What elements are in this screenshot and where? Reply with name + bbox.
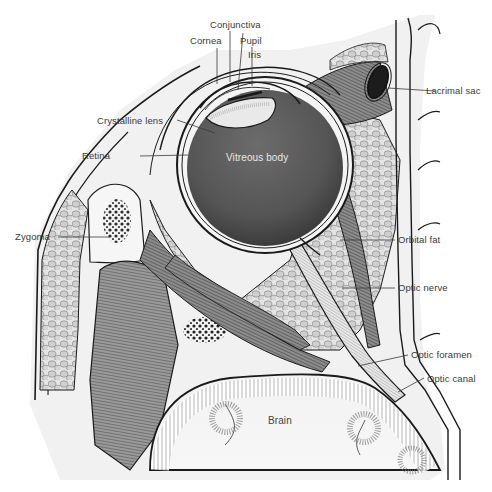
orbit-anatomy-diagram: Conjunctiva Cornea Pupil Iris Crystallin…	[0, 0, 492, 492]
label-optic-nerve: Optic nerve	[398, 282, 448, 293]
label-cornea: Cornea	[190, 35, 222, 46]
label-retina: Retina	[82, 150, 110, 161]
label-conjunctiva: Conjunctiva	[210, 19, 261, 30]
label-optic-foramen: Optic foramen	[411, 349, 472, 360]
label-optic-canal: Optic canal	[427, 373, 476, 384]
label-iris: Iris	[248, 49, 261, 60]
label-pupil: Pupil	[240, 35, 262, 46]
label-zygoma: Zygoma	[15, 231, 50, 242]
label-brain: Brain	[268, 415, 292, 426]
label-crystalline-lens: Crystalline lens	[97, 115, 163, 126]
label-lacrimal-sac: Lacrimal sac	[426, 85, 481, 96]
label-vitreous-body: Vitreous body	[226, 152, 288, 163]
illustration	[0, 0, 492, 492]
label-orbital-fat: Orbital fat	[398, 234, 440, 245]
